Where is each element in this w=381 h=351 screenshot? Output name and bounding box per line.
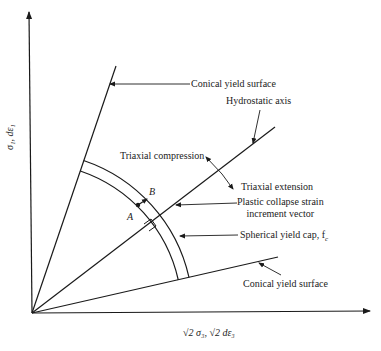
label-hydrostatic-axis: Hydrostatic axis — [226, 95, 291, 107]
inner-yield-cap-arc — [80, 171, 178, 280]
label-point-b: B — [149, 186, 155, 198]
leader-spherical-cap — [180, 235, 238, 236]
leader-plastic-vector — [176, 203, 237, 205]
yield-surface-diagram — [0, 0, 381, 351]
point-a-dot — [136, 203, 139, 206]
label-plastic-collapse-vector: Plastic collapse strain increment vector — [237, 196, 324, 219]
label-conical-yield-surface-lower: Conical yield surface — [243, 278, 328, 290]
label-plastic-line2: increment vector — [237, 208, 324, 220]
label-conical-yield-surface-upper: Conical yield surface — [191, 78, 276, 90]
label-triaxial-extension: Triaxial extension — [241, 181, 313, 193]
tc-te-arrow-down — [222, 174, 233, 189]
x-axis-label: √2 σ₃, √2 dε₃ — [183, 327, 235, 339]
y-axis-label: σ₁, dε₁ — [4, 124, 15, 150]
y-axis — [29, 12, 32, 313]
leader-hydrostatic — [253, 110, 260, 143]
leader-conical-lower — [259, 263, 281, 275]
tc-te-arrow-up — [206, 157, 222, 174]
upper-conical-line — [32, 66, 116, 313]
label-spherical-yield-cap: Spherical yield cap, fc — [240, 229, 328, 243]
label-point-a: A — [127, 211, 133, 223]
outer-yield-cap-arc — [84, 161, 189, 278]
label-triaxial-compression: Triaxial compression — [120, 150, 204, 162]
label-plastic-line1: Plastic collapse strain — [237, 196, 324, 208]
x-axis — [32, 311, 370, 313]
